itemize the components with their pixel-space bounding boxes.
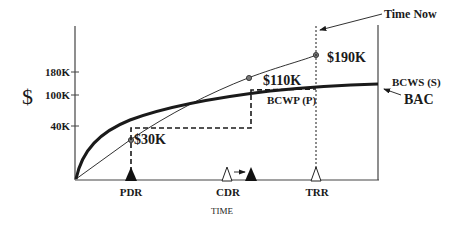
bac-arrow [384,89,401,95]
y-tick-label-40k: 40K [50,120,70,132]
label-190k: $190K [327,50,366,65]
trr-label: TRR [305,186,329,198]
y-tick-label-100k: 100K [45,89,71,101]
bcwp-label: BCWP (P) [267,94,317,107]
bcws-curve [76,84,378,179]
bac-label: BAC [404,92,434,107]
time-now-label: Time Now [384,7,437,21]
cdr-planned-milestone-icon [222,167,232,181]
y-axis-label: $ [22,84,33,109]
pdr-milestone-icon [125,167,137,181]
bcws-label: BCWS (S) [392,76,441,89]
time-now-arrow [320,14,382,30]
x-axis-label: TIME [211,206,233,216]
trr-milestone-icon [311,167,321,181]
label-110k: $110K [263,73,301,88]
label-30k: $30K [134,132,166,147]
pdr-label: PDR [120,186,144,198]
y-tick-label-180k: 180K [45,66,71,78]
acwp-point-110k [246,75,251,80]
cdr-actual-milestone-icon [245,167,257,181]
cdr-label: CDR [216,186,241,198]
earned-value-chart: 180K 100K 40K $ Time Now $190K $110K $30… [0,0,452,228]
